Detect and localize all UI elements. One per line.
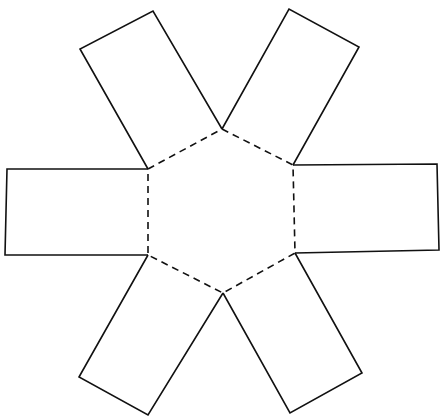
side-faces: [5, 9, 439, 415]
hexagon-base-fold-lines: [148, 129, 295, 293]
hexagonal-prism-net: [0, 0, 443, 419]
face-lower-right: [223, 253, 362, 413]
face-upper-right: [222, 9, 359, 165]
face-right: [293, 164, 439, 253]
face-lower-left: [79, 255, 223, 415]
face-upper-left: [80, 11, 222, 169]
face-left: [5, 169, 148, 255]
